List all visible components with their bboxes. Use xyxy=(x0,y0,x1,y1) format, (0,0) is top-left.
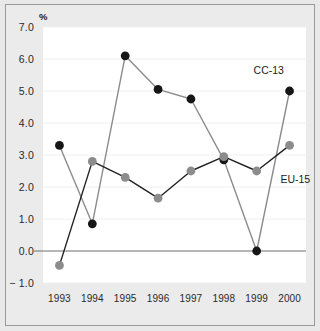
data-point xyxy=(187,95,196,104)
y-axis-tick-label: 5.0 xyxy=(0,85,34,97)
plot-canvas xyxy=(0,0,320,331)
data-point xyxy=(252,247,261,256)
x-axis-tick-label: 2000 xyxy=(270,293,310,304)
series-annotation-eu-15: EU-15 xyxy=(280,173,310,185)
data-point xyxy=(121,173,130,182)
data-point xyxy=(285,87,294,96)
data-point xyxy=(88,219,97,228)
y-axis-tick-label: − 1.0 xyxy=(0,277,34,289)
data-point xyxy=(154,194,163,203)
data-point xyxy=(55,261,64,270)
data-point xyxy=(219,152,228,161)
y-axis-tick-label: 3.0 xyxy=(0,149,34,161)
series-annotation-cc-13: CC-13 xyxy=(254,64,284,76)
data-point xyxy=(285,141,294,150)
data-point xyxy=(154,85,163,94)
y-axis-tick-label: 4.0 xyxy=(0,117,34,129)
y-axis-tick-label: 6.0 xyxy=(0,53,34,65)
y-axis-tick-label: 0.0 xyxy=(0,245,34,257)
y-axis-tick-label: 2.0 xyxy=(0,181,34,193)
data-point xyxy=(187,167,196,176)
data-point xyxy=(121,51,130,60)
data-point xyxy=(88,157,97,166)
y-axis-tick-label: 7.0 xyxy=(0,21,34,33)
y-axis-tick-label: 1.0 xyxy=(0,213,34,225)
data-point xyxy=(55,141,64,150)
chart-figure: % − 1.00.01.02.03.04.05.06.07.0199319941… xyxy=(0,0,320,331)
data-point xyxy=(252,167,261,176)
